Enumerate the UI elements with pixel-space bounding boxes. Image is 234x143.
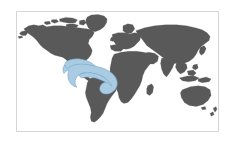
- map-frame: [16, 11, 219, 132]
- world-map-svg: [17, 12, 218, 131]
- world-distribution-figure: [0, 0, 234, 143]
